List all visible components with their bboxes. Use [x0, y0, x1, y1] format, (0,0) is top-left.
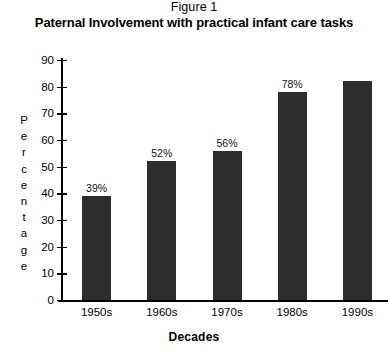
bar — [147, 161, 176, 300]
bar — [213, 151, 242, 300]
chart-title: Paternal Involvement with practical infa… — [0, 15, 388, 31]
bar — [343, 81, 372, 300]
plot-area: 0102030405060708090 39%52%56%78% — [62, 60, 388, 300]
bar-value-label: 39% — [77, 183, 117, 194]
y-axis-tick — [57, 300, 67, 301]
y-axis-tick-label: 80 — [41, 81, 54, 93]
y-axis-title-char: P — [17, 112, 31, 128]
y-axis-tick-label: 40 — [41, 188, 54, 200]
y-axis-title-char: t — [17, 209, 31, 225]
x-axis-line — [58, 300, 388, 302]
y-axis-tick-label: 60 — [41, 135, 54, 147]
y-axis-tick-label: 50 — [41, 161, 54, 173]
x-axis-tick-label: 1960s — [132, 306, 192, 319]
x-axis-tick-label: 1990s — [327, 306, 387, 319]
y-axis-title-char: r — [17, 144, 31, 160]
y-axis-title-char: e — [17, 177, 31, 193]
y-axis-title-char: c — [17, 161, 31, 177]
bar-value-label: 78% — [272, 79, 312, 90]
x-axis-tick-label: 1970s — [197, 306, 257, 319]
x-axis-title: Decades — [0, 330, 388, 344]
x-axis-tick-label: 1950s — [67, 306, 127, 319]
y-axis-tick-label: 70 — [41, 108, 54, 120]
figure-caption: Figure 1 — [0, 0, 388, 15]
y-axis-title-char: a — [17, 225, 31, 241]
y-axis-tick-label: 0 — [48, 295, 54, 307]
bar-value-label: 56% — [207, 138, 247, 149]
y-axis-tick-label: 20 — [41, 241, 54, 253]
y-axis-title-char: e — [17, 258, 31, 274]
bar — [278, 92, 307, 300]
y-axis-tick-label: 10 — [41, 268, 54, 280]
bar-series: 39%52%56%78% — [62, 60, 388, 300]
x-axis-tick-label: 1980s — [262, 306, 322, 319]
y-axis-title: Percentage — [17, 112, 31, 274]
y-axis-title-char: e — [17, 128, 31, 144]
y-axis-tick-label: 30 — [41, 215, 54, 227]
figure-container: Figure 1 Paternal Involvement with pract… — [0, 0, 388, 356]
y-axis-tick-label: 90 — [41, 55, 54, 67]
y-axis-title-char: g — [17, 242, 31, 258]
bar — [82, 196, 111, 300]
y-axis-title-char: n — [17, 193, 31, 209]
bar-value-label: 52% — [142, 148, 182, 159]
